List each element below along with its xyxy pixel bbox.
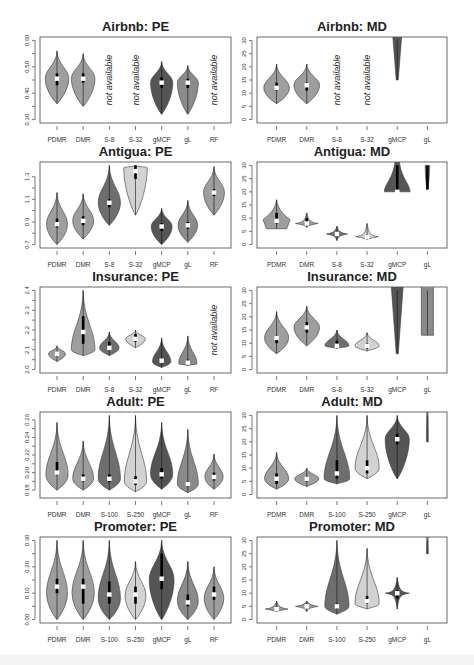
y-tick-label: 25	[241, 175, 247, 182]
iqr-bar	[336, 460, 339, 478]
x-category-label: gMCP	[388, 386, 406, 394]
x-category-label: gMCP	[153, 136, 171, 144]
panel-title: Insurance: MD	[307, 269, 397, 284]
x-category-label: RF	[210, 386, 219, 393]
y-tick-label: 2.0	[24, 365, 30, 374]
x-category-label: S-100	[101, 511, 119, 518]
y-tick-label: 0	[241, 117, 247, 121]
y-tick-label: 0.30	[24, 534, 30, 546]
median-marker	[274, 607, 278, 611]
x-category-label: PDMR	[267, 511, 286, 518]
x-category-label: gMCP	[388, 261, 406, 269]
median-marker	[305, 325, 309, 329]
y-tick-label: 0.18	[24, 484, 30, 496]
median-marker	[365, 466, 369, 470]
median-marker	[107, 477, 111, 481]
median-marker	[335, 344, 339, 348]
x-category-label: PDMR	[47, 511, 66, 518]
median-marker	[159, 358, 163, 362]
panel-title: Adult: MD	[321, 394, 382, 409]
median-marker	[186, 223, 190, 227]
median-marker	[81, 584, 85, 588]
y-tick-label: 1.1	[24, 195, 30, 204]
x-category-label: gL	[424, 261, 432, 269]
y-tick-label: 30	[241, 161, 247, 168]
y-tick-label: 0.60	[24, 34, 30, 46]
x-category-label: S-32	[129, 136, 143, 143]
not-available-label: not available	[209, 305, 219, 356]
iqr-bar	[426, 165, 429, 191]
median-marker	[55, 584, 59, 588]
median-marker	[133, 337, 137, 341]
median-marker	[55, 222, 59, 226]
panel-promoter-md: Promoter: MD051015202530PDMRDMRS-100S-25…	[241, 519, 447, 644]
x-category-label: S-100	[101, 636, 119, 643]
y-tick-label: 0	[241, 492, 247, 496]
y-tick-label: 0.30	[24, 113, 30, 125]
plot-area	[257, 162, 447, 248]
x-category-label: DMR	[299, 636, 314, 643]
x-category-label: gL	[424, 636, 432, 644]
x-category-label: S-8	[104, 136, 115, 143]
median-marker	[81, 330, 85, 334]
panel-antigua-pe: Antigua: PE0.70.91.11.3PDMRDMRS-8S-32gMC…	[24, 144, 231, 269]
median-marker	[133, 169, 137, 173]
median-marker	[107, 592, 111, 596]
median-marker	[81, 219, 85, 223]
median-marker	[212, 190, 216, 194]
median-marker	[425, 190, 429, 194]
x-category-label: PDMR	[47, 636, 66, 643]
y-tick-label: 15	[241, 76, 247, 83]
median-marker	[365, 599, 369, 603]
x-category-label: S-32	[360, 136, 374, 143]
y-tick-label: 15	[241, 201, 247, 208]
x-category-label: DMR	[299, 261, 314, 268]
y-tick-label: 25	[241, 550, 247, 557]
y-tick-label: 25	[241, 425, 247, 432]
panel-title: Antigua: PE	[99, 144, 173, 159]
panel-title: Promoter: MD	[309, 519, 395, 534]
x-category-label: PDMR	[267, 386, 286, 393]
y-tick-label: 0.9	[24, 217, 30, 226]
y-tick-label: 0.22	[24, 449, 30, 461]
x-category-label: PDMR	[47, 386, 66, 393]
x-category-label: DMR	[299, 386, 314, 393]
not-available-label: not available	[332, 55, 342, 106]
x-category-label: gL	[184, 386, 192, 394]
x-category-label: gMCP	[153, 261, 171, 269]
y-tick-label: 10	[241, 464, 247, 471]
y-tick-label: 5	[241, 354, 247, 358]
x-category-label: S-250	[127, 636, 145, 643]
median-marker	[274, 219, 278, 223]
x-category-label: S-32	[129, 261, 143, 268]
y-tick-label: 0	[241, 367, 247, 371]
x-category-label: gMCP	[153, 511, 171, 519]
y-tick-label: 10	[241, 339, 247, 346]
iqr-bar	[82, 579, 85, 604]
panel-promoter-pe: Promoter: PE0.000.100.200.30PDMRDMRS-100…	[24, 519, 231, 644]
x-category-label: S-32	[360, 261, 374, 268]
x-category-label: PDMR	[47, 261, 66, 268]
x-category-label: DMR	[76, 511, 91, 518]
x-category-label: DMR	[76, 261, 91, 268]
x-category-label: gMCP	[388, 511, 406, 519]
median-marker	[335, 604, 339, 608]
x-category-label: gMCP	[153, 636, 171, 644]
x-category-label: DMR	[76, 386, 91, 393]
y-tick-label: 20	[241, 313, 247, 320]
median-marker	[133, 592, 137, 596]
x-category-label: S-100	[328, 511, 346, 518]
x-category-label: S-100	[328, 636, 346, 643]
x-category-label: PDMR	[267, 636, 286, 643]
not-available-label: not available	[104, 55, 114, 106]
x-category-label: gL	[184, 261, 192, 269]
y-tick-label: 15	[241, 576, 247, 583]
median-marker	[212, 475, 216, 479]
median-marker	[365, 344, 369, 348]
x-category-label: DMR	[299, 136, 314, 143]
x-category-label: DMR	[76, 636, 91, 643]
x-category-label: S-32	[360, 386, 374, 393]
y-tick-label: 20	[241, 63, 247, 70]
x-category-label: RF	[210, 511, 219, 518]
panel-insurance-pe: Insurance: PE2.02.12.22.32.4PDMRDMRS-8S-…	[24, 269, 231, 394]
